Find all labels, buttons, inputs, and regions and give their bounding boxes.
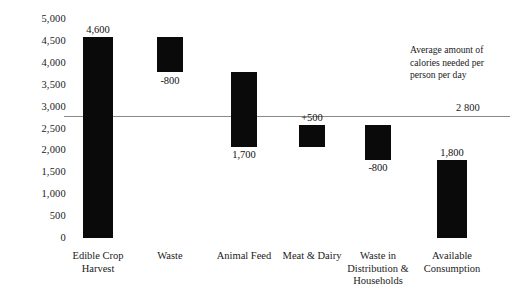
bar-0 [83,37,113,238]
y-axis-tick-label: 3,500 [6,80,66,91]
bar-3 [299,125,325,147]
y-axis-tick-label: 1,500 [6,167,66,178]
y-axis-tick-label: 1,000 [6,189,66,200]
y-axis-tick-label: 2,000 [6,145,66,156]
annotation-line: calories needed per [410,57,516,70]
x-axis-category-label-4: Waste inDistribution &Households [336,250,420,288]
bar-value-label-3: +500 [282,112,342,123]
bar-2 [231,72,257,146]
x-axis-category-label-1: Waste [138,250,202,263]
bar-value-label-2: 1,700 [214,149,274,160]
y-axis-tick-label: 4,500 [6,36,66,47]
category-label-line: Distribution & [336,263,420,276]
category-label-line: Available [410,250,494,263]
y-axis-tick-label: 0 [6,233,66,244]
bar-value-label-0: 4,600 [68,24,128,35]
y-axis-tick-label: 5,000 [6,14,66,25]
bar-value-label-1: -800 [140,75,200,86]
x-axis-category-label-0: Edible CropHarvest [57,250,139,275]
category-label-line: Animal Feed [205,250,283,263]
category-label-line: Households [336,275,420,288]
bar-value-label-4: -800 [348,162,408,173]
reference-line-value: 2 800 [456,102,480,113]
y-axis-tick-label: 4,000 [6,58,66,69]
y-axis-tick-label: 500 [6,211,66,222]
waterfall-chart: 5,0004,5004,0003,5003,0002,5002,0001,500… [0,0,518,290]
category-label-line: Waste [138,250,202,263]
bar-1 [157,37,183,72]
x-axis-category-label-5: AvailableConsumption [410,250,494,275]
bar-value-label-5: 1,800 [422,147,482,158]
category-label-line: Edible Crop [57,250,139,263]
y-axis-tick-label: 2,500 [6,124,66,135]
reference-line-annotation: Average amount ofcalories needed perpers… [410,44,516,82]
x-axis-category-label-2: Animal Feed [205,250,283,263]
category-label-line: Waste in [336,250,420,263]
annotation-line: Average amount of [410,44,516,57]
bar-5 [437,160,467,239]
annotation-line: person per day [410,69,516,82]
bar-4 [365,125,391,160]
category-label-line: Consumption [410,263,494,276]
category-label-line: Harvest [57,263,139,276]
y-axis-tick-label: 3,000 [6,102,66,113]
